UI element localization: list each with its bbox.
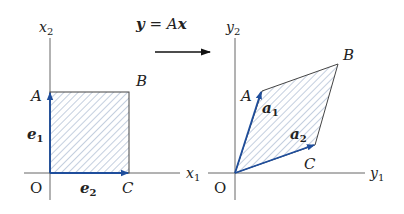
origin-label: O xyxy=(30,179,42,197)
point-C-label: C xyxy=(122,179,134,197)
point-A-label: A xyxy=(29,87,42,105)
point-B-label: B xyxy=(135,72,147,90)
y2-axis-label: y2 xyxy=(225,19,240,37)
vector-e2-label: e2 xyxy=(80,179,97,198)
transformation-label: y = Ax xyxy=(135,15,188,33)
x1-axis-label: x1 xyxy=(186,165,200,183)
x2-axis-label: x2 xyxy=(39,19,53,37)
eq-A: A xyxy=(165,15,178,33)
unit-square xyxy=(50,92,129,173)
point-B-prime-label: B xyxy=(342,46,354,64)
parallelogram xyxy=(235,64,338,173)
svg-text:y = Ax: y = Ax xyxy=(135,15,188,33)
eq-equals: = xyxy=(145,15,167,33)
eq-x: x xyxy=(177,15,188,33)
origin-prime-label: O xyxy=(214,179,226,197)
point-A-prime-label: A xyxy=(239,87,252,105)
linear-transformation-diagram: y = Ax x2 x1 A B C O e1 e2 y2 y1 xyxy=(0,0,404,214)
point-C-prime-label: C xyxy=(304,155,316,173)
y1-axis-label: y1 xyxy=(369,165,384,183)
vector-e1-label: e1 xyxy=(27,125,44,144)
left-plot: x2 x1 A B C O e1 e2 xyxy=(24,19,200,200)
right-plot: y2 y1 A B C O a1 a2 xyxy=(208,19,384,200)
